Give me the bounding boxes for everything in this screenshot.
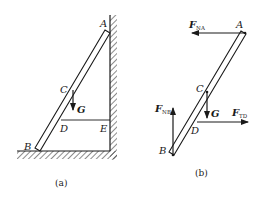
label-f-na: FNA <box>188 19 206 31</box>
point-b-dot <box>172 154 175 157</box>
label-f-nb: FNB <box>154 103 171 115</box>
caption-a: (a) <box>55 178 67 188</box>
label-a: A <box>99 18 107 29</box>
point-a-dot <box>244 32 247 35</box>
label-c-b: C <box>196 83 204 94</box>
label-d-b: D <box>190 125 199 136</box>
label-g-b: G <box>211 108 220 119</box>
panel-b: A FNA C G FNB FTD D B (b) <box>154 19 248 178</box>
ladder-statics-diagram: A C G D E B (a) A FNA C G FNB FTD <box>0 0 260 197</box>
ground-hatching <box>17 151 117 159</box>
label-b-b: B <box>158 145 166 156</box>
point-c-dot <box>206 91 209 94</box>
label-a-b: A <box>235 19 243 30</box>
label-c: C <box>60 84 68 95</box>
label-g: G <box>77 104 86 115</box>
label-f-td: FTD <box>231 107 248 119</box>
label-d: D <box>59 123 68 134</box>
label-b: B <box>23 141 31 152</box>
wall-hatching <box>110 15 117 160</box>
panel-a: A C G D E B (a) <box>17 15 117 188</box>
label-e: E <box>99 123 108 134</box>
caption-b: (b) <box>195 168 208 178</box>
